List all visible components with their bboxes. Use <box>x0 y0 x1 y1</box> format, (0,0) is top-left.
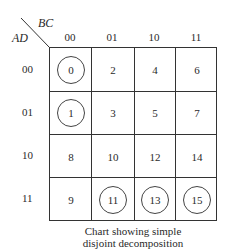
cell-value: 4 <box>152 64 158 76</box>
map-cell: 0 <box>50 48 92 92</box>
row-header: 00 <box>22 63 33 75</box>
circle-marker: 1 <box>57 99 85 127</box>
cell-value: 0 <box>68 64 74 76</box>
map-cell: 8 <box>50 135 92 179</box>
cell-value: 8 <box>68 151 74 163</box>
row-header: 01 <box>22 106 33 118</box>
map-cell: 6 <box>176 48 218 92</box>
col-header: 00 <box>49 31 91 43</box>
cell-value: 5 <box>152 107 158 119</box>
col-variable-label: BC <box>38 16 53 31</box>
cell-value: 2 <box>110 64 116 76</box>
map-cell: 15 <box>176 179 218 223</box>
cell-value: 3 <box>110 107 116 119</box>
row-variable-label: AD <box>12 31 28 46</box>
circle-marker: 0 <box>57 56 85 84</box>
caption-line: disjoint decomposition <box>49 237 217 249</box>
caption-line: Chart showing simple <box>49 225 217 237</box>
circle-marker: 11 <box>99 186 127 214</box>
circle-marker: 13 <box>141 186 169 214</box>
map-cell: 9 <box>50 179 92 223</box>
cell-value: 7 <box>194 107 200 119</box>
karnaugh-grid: 0 2 4 6 1 3 5 7 8 10 12 14 9 11 13 15 <box>49 47 217 221</box>
map-cell: 2 <box>92 48 134 92</box>
circle-marker: 15 <box>183 186 211 214</box>
col-header: 11 <box>175 31 217 43</box>
row-header: 11 <box>22 192 33 204</box>
cell-value: 6 <box>194 64 200 76</box>
map-cell: 1 <box>50 92 92 136</box>
map-cell: 11 <box>92 179 134 223</box>
row-header: 10 <box>22 149 33 161</box>
cell-value: 1 <box>68 107 74 119</box>
map-cell: 14 <box>176 135 218 179</box>
map-cell: 7 <box>176 92 218 136</box>
col-header: 10 <box>133 31 175 43</box>
cell-value: 12 <box>150 151 161 163</box>
cell-value: 13 <box>150 194 161 206</box>
map-cell: 5 <box>134 92 176 136</box>
map-cell: 13 <box>134 179 176 223</box>
cell-value: 14 <box>192 151 203 163</box>
col-header: 01 <box>91 31 133 43</box>
cell-value: 10 <box>108 151 119 163</box>
cell-value: 15 <box>192 194 203 206</box>
map-cell: 10 <box>92 135 134 179</box>
map-cell: 12 <box>134 135 176 179</box>
cell-value: 9 <box>68 194 74 206</box>
map-cell: 4 <box>134 48 176 92</box>
figure-caption: Chart showing simple disjoint decomposit… <box>49 225 217 249</box>
cell-value: 11 <box>108 194 119 206</box>
map-cell: 3 <box>92 92 134 136</box>
